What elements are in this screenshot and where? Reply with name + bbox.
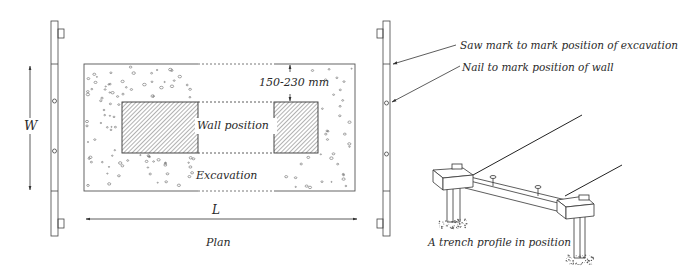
nail-callout: Nail to mark position of wall — [462, 62, 614, 73]
width-label: W — [24, 119, 37, 132]
right-profile-board — [377, 21, 390, 236]
wall-position-label: Wall position — [197, 120, 269, 131]
excavation-label: Excavation — [196, 170, 257, 181]
plan-caption: Plan — [206, 237, 231, 248]
offset-dimension-label: 150-230 mm — [259, 77, 329, 88]
length-label: L — [212, 204, 220, 216]
saw-mark-arrow — [393, 45, 456, 64]
perspective-caption: A trench profile in position — [428, 237, 571, 248]
left-profile-board — [51, 21, 64, 236]
saw-mark-callout: Saw mark to mark position of excavation — [460, 40, 678, 51]
nail-arrow — [392, 66, 460, 102]
